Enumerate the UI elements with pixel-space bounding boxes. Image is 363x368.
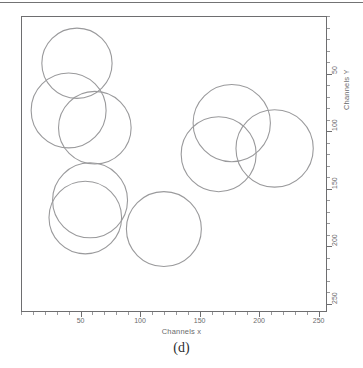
x-axis-minor-tick [247,312,248,315]
x-axis-minor-tick [33,312,34,315]
x-axis-minor-tick [283,312,284,315]
x-axis-tick-label: 50 [77,317,85,324]
x-axis-minor-tick [271,312,272,315]
y-axis-minor-tick [327,269,330,270]
detected-circle [59,91,132,164]
y-axis-minor-tick [327,258,330,259]
detected-circle [126,192,201,267]
y-axis-minor-tick [327,166,330,167]
y-axis-minor-tick [327,154,330,155]
detected-circle [236,110,313,187]
y-axis-minor-tick [327,97,330,98]
y-axis-tick-label: 250 [331,292,338,304]
y-axis-minor-tick [327,28,330,29]
detected-circle [193,84,270,161]
y-axis-tick [327,246,332,247]
x-axis-minor-tick [69,312,70,315]
x-axis-minor-tick [164,312,165,315]
x-axis-minor-tick [104,312,105,315]
x-axis-minor-tick [45,312,46,315]
y-axis-tick [327,304,332,305]
y-axis: 50100150200250 [327,16,363,312]
x-axis-minor-tick [152,312,153,315]
x-axis-tick-label: 200 [253,317,265,324]
x-axis-minor-tick [223,312,224,315]
y-axis-minor-tick [327,212,330,213]
x-axis-minor-tick [57,312,58,315]
detected-circle [53,163,128,238]
y-axis-minor-tick [327,281,330,282]
detected-circle [49,181,122,254]
x-axis-title: Channels x [0,327,363,336]
x-axis-tick-label: 100 [134,317,146,324]
y-axis-minor-tick [327,223,330,224]
y-axis-tick-label: 200 [331,235,338,247]
plot-canvas [21,16,327,312]
x-axis-minor-tick [235,312,236,315]
y-axis-minor-tick [327,51,330,52]
x-axis-minor-tick [116,312,117,315]
y-axis-tick [327,131,332,132]
figure-caption: (d) [0,340,363,356]
figure-panel: 50100150200250 Channels x 50100150200250… [0,0,363,368]
x-axis-minor-tick [212,312,213,315]
y-axis-minor-tick [327,39,330,40]
y-axis-minor-tick [327,200,330,201]
y-axis-minor-tick [327,108,330,109]
x-axis-minor-tick [295,312,296,315]
y-axis-minor-tick [327,62,330,63]
x-axis-minor-tick [307,312,308,315]
y-axis-minor-tick [327,85,330,86]
y-axis-tick-label: 150 [331,177,338,189]
y-axis-minor-tick [327,16,330,17]
y-axis-tick-label: 50 [331,66,338,74]
detected-circle [42,28,112,98]
x-axis-minor-tick [92,312,93,315]
x-axis-tick-label: 150 [194,317,206,324]
x-axis-minor-tick [176,312,177,315]
y-axis-title: Channels Y [342,69,351,110]
x-axis-minor-tick [188,312,189,315]
detected-circle [181,117,256,192]
x-axis-tick-label: 250 [313,317,325,324]
detected-circle [31,73,106,148]
y-axis-tick-label: 100 [331,119,338,131]
x-axis-minor-tick [21,312,22,315]
x-axis-minor-tick [128,312,129,315]
y-axis-minor-tick [327,143,330,144]
